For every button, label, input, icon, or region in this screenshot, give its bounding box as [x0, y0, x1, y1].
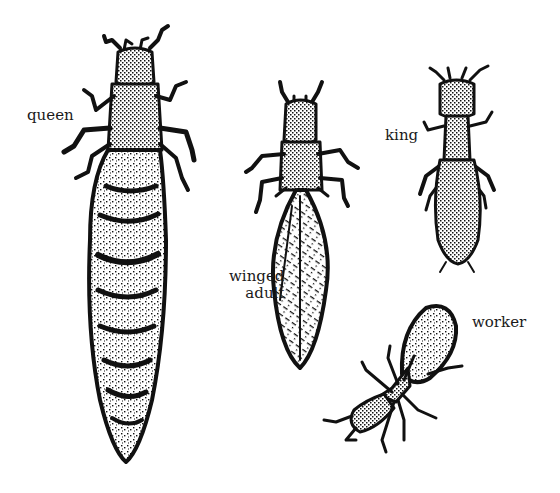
- queen-label: queen: [27, 107, 74, 124]
- king-label: king: [385, 127, 418, 144]
- winged-adult-termite: [246, 82, 358, 368]
- king-termite: [420, 66, 494, 272]
- winged-adult-label-line1: winged: [229, 268, 284, 285]
- queen-termite: [64, 26, 194, 462]
- termite-illustration: [0, 0, 560, 493]
- winged-adult-label-line2: adult: [229, 285, 284, 302]
- winged-adult-label: winged adult: [229, 268, 284, 302]
- worker-label: worker: [472, 314, 526, 331]
- worker-termite: [324, 306, 462, 452]
